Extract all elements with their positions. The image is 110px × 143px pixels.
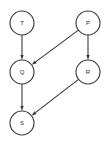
directed-graph-diagram: TPQRS <box>0 0 110 143</box>
node-p-label: P <box>86 20 90 26</box>
node-s: S <box>10 111 34 135</box>
edge-r-to-s <box>35 79 78 112</box>
node-p: P <box>76 11 100 35</box>
node-t: T <box>10 11 34 35</box>
node-r: R <box>76 60 100 84</box>
node-s-label: S <box>20 120 24 126</box>
arrowhead-p-to-r-icon <box>86 55 89 60</box>
node-q: Q <box>10 60 34 84</box>
node-r-label: R <box>86 69 91 75</box>
edge-p-to-q <box>36 30 79 62</box>
arrowhead-q-to-s-icon <box>20 106 23 111</box>
node-t-label: T <box>20 20 24 26</box>
arrowhead-t-to-q-icon <box>20 55 23 60</box>
nodes-layer: TPQRS <box>10 11 100 135</box>
node-q-label: Q <box>20 69 25 75</box>
